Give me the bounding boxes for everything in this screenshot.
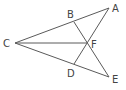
segment-CA [15,8,109,43]
label-A: A [112,3,119,14]
label-B: B [67,9,74,20]
label-C: C [3,38,10,49]
label-F: F [91,39,97,50]
geometry-diagram: A B C D E F [0,0,126,90]
segment-DA [74,8,109,64]
label-D: D [67,68,75,79]
label-E: E [112,74,118,85]
